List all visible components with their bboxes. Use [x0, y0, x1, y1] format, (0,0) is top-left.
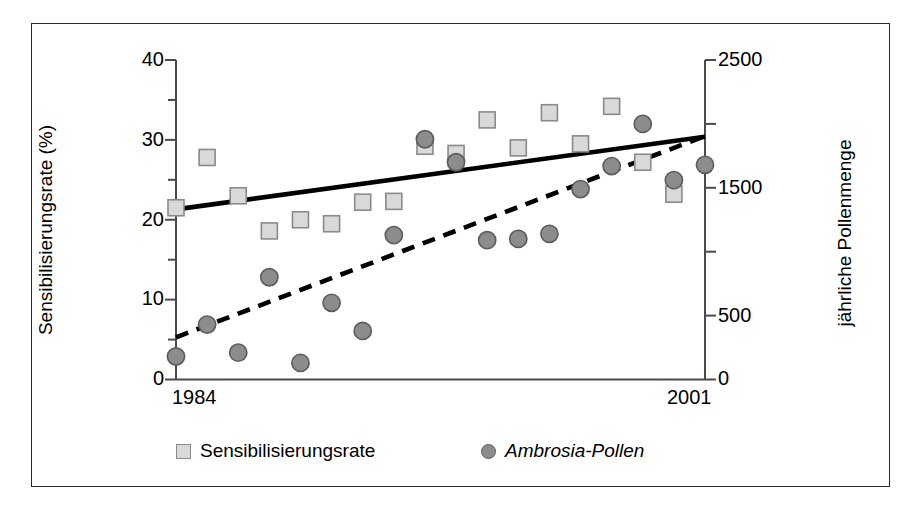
square-point-1994	[479, 112, 495, 128]
circle-point-1989	[323, 294, 340, 311]
legend-label-sensibilisierungsrate: Sensibilisierungsrate	[200, 440, 375, 462]
circle-point-1998	[603, 157, 620, 174]
legend-circle-marker-icon	[481, 444, 496, 459]
square-point-1988	[292, 212, 308, 228]
square-point-1995	[510, 140, 526, 156]
circle-point-1999	[634, 115, 651, 132]
square-point-1985	[199, 149, 215, 165]
circle-point-1997	[572, 180, 589, 197]
circle-point-1991	[385, 226, 402, 243]
circle-point-1987	[261, 269, 278, 286]
square-point-1989	[324, 216, 340, 232]
square-point-1987	[261, 223, 277, 239]
trendline-Ambrosia-Pollen-trend	[176, 136, 705, 337]
square-point-1984	[168, 200, 184, 216]
square-point-1990	[355, 194, 371, 210]
circle-point-1992	[416, 131, 433, 148]
circle-point-2001	[696, 156, 713, 173]
figure-container: Sensibilisierungsrate (%) jährliche Poll…	[0, 0, 917, 520]
circle-point-1990	[354, 322, 371, 339]
circle-point-1996	[541, 225, 558, 242]
square-point-1998	[604, 98, 620, 114]
square-point-1986	[230, 188, 246, 204]
circle-point-1993	[447, 154, 464, 171]
legend-label-ambrosia-pollen: Ambrosia-Pollen	[505, 440, 644, 462]
data-points	[167, 98, 713, 371]
circle-point-1995	[510, 230, 527, 247]
circle-point-1994	[479, 232, 496, 249]
left-axis-ticks	[165, 60, 176, 380]
legend-square-marker-icon	[176, 444, 191, 459]
circle-point-1985	[199, 316, 216, 333]
square-point-1991	[386, 193, 402, 209]
legend-item-sensibilisierungsrate: Sensibilisierungsrate	[176, 440, 375, 462]
trendline-Sensibilisierungsrate-trend	[176, 137, 705, 210]
chart-legend: Sensibilisierungsrate Ambrosia-Pollen	[176, 436, 696, 470]
legend-item-ambrosia-pollen: Ambrosia-Pollen	[481, 440, 644, 462]
square-point-1997	[573, 136, 589, 152]
circle-point-1984	[167, 348, 184, 365]
circle-point-1986	[230, 344, 247, 361]
square-point-1996	[541, 105, 557, 121]
trendlines	[176, 136, 705, 337]
square-point-1999	[635, 154, 651, 170]
circle-point-1988	[292, 354, 309, 371]
circle-point-2000	[665, 172, 682, 189]
axis-lines	[176, 60, 705, 380]
right-axis-ticks	[705, 60, 716, 380]
